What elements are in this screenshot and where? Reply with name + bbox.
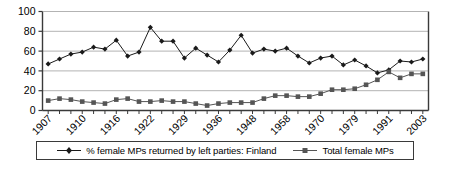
data-point-marker <box>409 72 414 77</box>
data-point-marker <box>318 91 323 96</box>
data-point-marker <box>352 86 357 91</box>
data-point-marker <box>386 70 391 75</box>
data-point-marker <box>364 82 369 87</box>
y-tick-label: 80 <box>24 25 36 37</box>
x-axis-tick-labels: 1907191019161922192919361948195819701979… <box>29 112 429 137</box>
data-point-marker <box>148 99 153 104</box>
chart-legend: % female MPs returned by left parties: F… <box>36 141 414 160</box>
series-2 <box>46 70 425 108</box>
y-axis-tick-labels: 020406080100 <box>18 5 43 116</box>
data-point-marker <box>262 96 267 101</box>
data-point-marker <box>205 52 210 57</box>
legend-entry-series-1: % female MPs returned by left parties: F… <box>56 146 276 156</box>
data-point-marker <box>363 63 368 68</box>
data-point-marker <box>57 56 62 61</box>
data-point-marker <box>91 45 96 50</box>
x-tick-label: 1916 <box>97 112 122 137</box>
axis-lines <box>43 12 429 111</box>
data-point-marker <box>182 99 187 104</box>
data-point-marker <box>307 94 312 99</box>
data-point-marker <box>137 99 142 104</box>
data-point-marker <box>57 96 62 101</box>
data-point-marker <box>228 100 233 105</box>
y-tick-label: 60 <box>24 45 36 57</box>
x-tick-label: 1979 <box>336 112 361 137</box>
data-point-marker <box>125 96 130 101</box>
data-point-marker <box>330 87 335 92</box>
data-series-layer <box>46 25 426 108</box>
data-point-marker <box>80 99 85 104</box>
data-point-marker <box>205 103 210 108</box>
data-point-marker <box>420 56 425 61</box>
series-line <box>48 72 423 106</box>
square-marker-icon <box>292 146 318 155</box>
y-tick-label: 20 <box>24 84 36 96</box>
data-point-marker <box>103 101 108 106</box>
x-tick-label: 1970 <box>302 112 327 137</box>
data-point-marker <box>171 99 176 104</box>
diamond-marker-icon <box>56 146 82 155</box>
x-tick-label: 1936 <box>199 112 224 137</box>
legend-label-series-1: % female MPs returned by left parties: F… <box>86 146 276 156</box>
data-point-marker <box>136 49 141 54</box>
data-point-marker <box>46 98 51 103</box>
gridlines <box>43 12 429 91</box>
data-point-marker <box>296 94 301 99</box>
y-tick-label: 100 <box>18 5 36 17</box>
data-point-marker <box>421 72 426 77</box>
data-point-marker <box>80 49 85 54</box>
data-point-marker <box>239 100 244 105</box>
data-point-marker <box>114 97 119 102</box>
data-point-marker <box>375 78 380 83</box>
x-tick-label: 1948 <box>233 112 258 137</box>
data-point-marker <box>398 76 403 81</box>
data-point-marker <box>352 57 357 62</box>
data-point-marker <box>216 101 221 106</box>
x-tick-label: 1922 <box>131 112 156 137</box>
data-point-marker <box>46 61 51 66</box>
y-tick-label: 40 <box>24 65 36 77</box>
x-tick-label: 1910 <box>63 112 88 137</box>
legend-entry-series-2: Total female MPs <box>292 146 393 156</box>
x-tick-label: 1929 <box>165 112 190 137</box>
data-point-marker <box>68 51 73 56</box>
y-tick-label: 0 <box>30 104 36 116</box>
x-tick-label: 2003 <box>404 112 429 137</box>
chart-container: 020406080100 190719101916192219291936194… <box>0 0 451 169</box>
legend-label-series-2: Total female MPs <box>322 146 393 156</box>
data-point-marker <box>193 101 198 106</box>
data-point-marker <box>69 97 74 102</box>
data-point-marker <box>307 60 312 65</box>
x-tick-label: 1958 <box>267 112 292 137</box>
data-point-marker <box>341 87 346 92</box>
x-tick-label: 1991 <box>370 112 395 137</box>
data-point-marker <box>409 59 414 64</box>
data-point-marker <box>91 100 96 105</box>
data-point-marker <box>159 98 164 103</box>
series-1 <box>46 25 426 76</box>
data-point-marker <box>318 55 323 60</box>
data-point-marker <box>273 49 278 54</box>
data-point-marker <box>273 93 278 98</box>
data-point-marker <box>284 93 289 98</box>
data-point-marker <box>250 100 255 105</box>
